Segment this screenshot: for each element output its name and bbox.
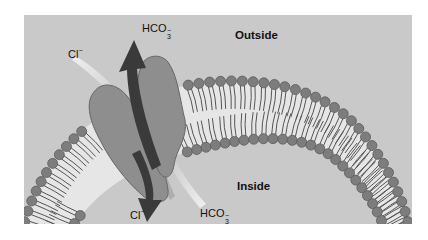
bicarbonate-label-outside: HCO−3	[142, 23, 171, 39]
outside-region-label: Outside	[235, 30, 278, 41]
membrane-illustration	[24, 15, 412, 224]
diagram-panel: Cl− HCO−3 Outside Inside Cl− HCO−3	[24, 15, 412, 224]
chloride-label-outside: Cl−	[68, 49, 82, 60]
chloride-label-inside: Cl−	[130, 210, 144, 221]
inside-region-label: Inside	[237, 181, 270, 192]
bicarbonate-label-inside: HCO−3	[200, 208, 229, 224]
lipid-bilayer	[24, 76, 412, 224]
